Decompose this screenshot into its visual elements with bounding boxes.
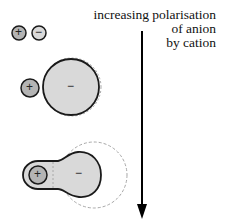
- polarisation-annotation: increasing polarisation of anion by cati…: [93, 8, 216, 50]
- annotation-line-3: by cation: [93, 36, 216, 50]
- anion-sign-row3: −: [75, 166, 82, 180]
- polarisation-arrow: [137, 31, 147, 219]
- anion-sign-row1: −: [35, 25, 42, 39]
- anion-sign-row2: −: [67, 79, 74, 93]
- annotation-line-2: of anion: [93, 22, 216, 36]
- cation-sign-row3: +: [34, 167, 41, 181]
- arrow-head-icon: [137, 204, 147, 219]
- cation-sign-row1: +: [15, 25, 22, 39]
- cation-sign-row2: +: [26, 80, 33, 94]
- annotation-line-1: increasing polarisation: [93, 8, 216, 22]
